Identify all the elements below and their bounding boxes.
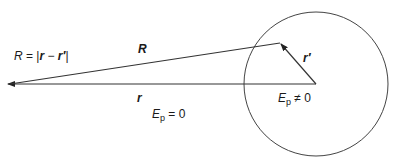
Ep-inside-sub: p (286, 97, 291, 107)
Ep-outside-rel: = 0 (165, 107, 185, 121)
diagram-graphics (0, 0, 395, 168)
Ep-outside-E: E (152, 107, 160, 121)
R-def-lhs: R (14, 49, 23, 63)
r-vector-label: r (137, 92, 142, 104)
R-def-eq: = | (23, 49, 40, 63)
R-vector-label: R (138, 43, 147, 55)
r-prime-vector-label: r′ (303, 52, 311, 64)
Ep-inside-label: Ep ≠ 0 (278, 92, 311, 104)
R-def-close: | (65, 49, 68, 63)
R-definition-label: R = |r − r′| (14, 50, 69, 62)
Ep-inside-E: E (278, 91, 286, 105)
R-def-minus: − (44, 49, 58, 63)
Ep-outside-label: Ep = 0 (152, 108, 185, 120)
Ep-outside-sub: p (160, 113, 165, 123)
vector-diagram: R = |r − r′| R r r′ Ep = 0 Ep ≠ 0 (0, 0, 395, 168)
Ep-inside-rel: ≠ 0 (291, 91, 311, 105)
